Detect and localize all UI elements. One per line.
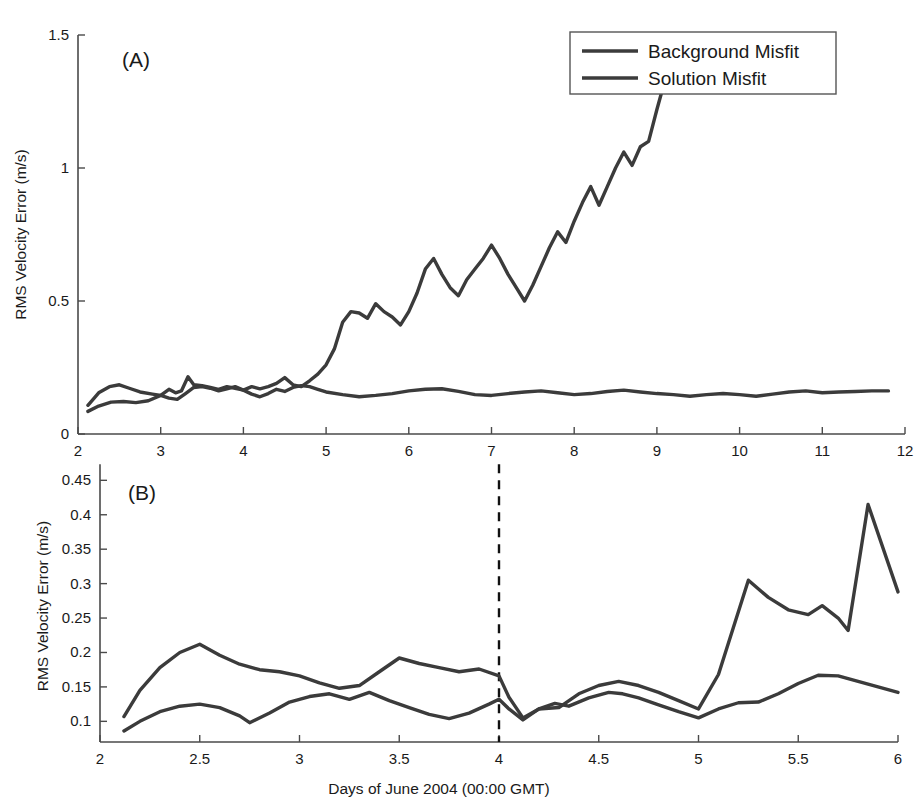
x-axis-title-B: Days of June 2004 (00:00 GMT) <box>328 780 549 797</box>
x-tick-label-A-7: 9 <box>653 442 661 459</box>
x-tick-label-A-5: 7 <box>487 442 495 459</box>
legend-label-1: Solution Misfit <box>648 68 767 89</box>
panel-B: 0.10.150.20.250.30.350.40.4522.533.544.5… <box>34 464 902 797</box>
x-tick-label-A-1: 3 <box>157 442 165 459</box>
y-tick-label-B-3: 0.25 <box>62 609 91 626</box>
y-tick-label-B-2: 0.2 <box>70 643 91 660</box>
y-tick-label-A-2: 1 <box>61 159 69 176</box>
figure-container: 00.511.523456789101112RMS Velocity Error… <box>0 0 917 801</box>
y-tick-label-A-1: 0.5 <box>48 292 69 309</box>
x-tick-label-A-10: 12 <box>897 442 914 459</box>
chart-svg: 00.511.523456789101112RMS Velocity Error… <box>0 0 917 801</box>
x-tick-label-B-6: 5 <box>694 750 702 767</box>
series-line-B-background-misfit <box>124 504 898 717</box>
x-tick-label-B-5: 4.5 <box>588 750 609 767</box>
y-tick-label-B-1: 0.15 <box>62 678 91 695</box>
x-tick-label-B-3: 3.5 <box>389 750 410 767</box>
y-tick-label-B-0: 0.1 <box>70 712 91 729</box>
legend: Background MisfitSolution Misfit <box>570 32 836 94</box>
x-tick-label-B-7: 5.5 <box>788 750 809 767</box>
x-tick-label-A-4: 6 <box>405 442 413 459</box>
x-tick-label-B-8: 6 <box>894 750 902 767</box>
y-tick-label-A-0: 0 <box>61 425 69 442</box>
panel-label-B: (B) <box>128 481 156 504</box>
series-line-A-solution-misfit <box>88 386 889 412</box>
y-axis-title-B: RMS Velocity Error (m/s) <box>34 521 51 692</box>
y-tick-label-A-3: 1.5 <box>48 26 69 43</box>
x-tick-label-A-2: 4 <box>239 442 247 459</box>
x-tick-label-B-0: 2 <box>96 750 104 767</box>
y-tick-label-B-7: 0.45 <box>62 471 91 488</box>
x-tick-label-B-4: 4 <box>495 750 503 767</box>
y-tick-label-B-6: 0.4 <box>70 506 91 523</box>
x-tick-label-A-0: 2 <box>74 442 82 459</box>
x-tick-label-A-8: 10 <box>731 442 748 459</box>
panel-label-A: (A) <box>122 48 150 71</box>
x-tick-label-B-1: 2.5 <box>189 750 210 767</box>
x-tick-label-B-2: 3 <box>295 750 303 767</box>
x-tick-label-A-3: 5 <box>322 442 330 459</box>
y-tick-label-B-4: 0.3 <box>70 575 91 592</box>
series-line-A-background-misfit <box>88 86 664 406</box>
x-tick-label-A-9: 11 <box>815 442 831 459</box>
legend-label-0: Background Misfit <box>648 41 800 62</box>
x-tick-label-A-6: 8 <box>570 442 578 459</box>
y-tick-label-B-5: 0.35 <box>62 540 91 557</box>
y-axis-title-A: RMS Velocity Error (m/s) <box>12 149 29 320</box>
